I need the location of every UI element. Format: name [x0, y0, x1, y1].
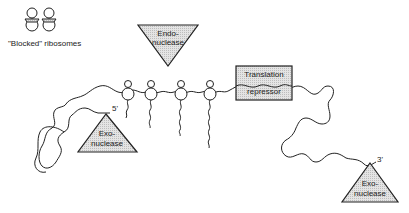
endonuclease-label-line1: Endo-	[157, 29, 179, 38]
translation-repressor-box: Translation repressor	[236, 66, 292, 100]
ribosome-4	[204, 81, 216, 149]
mrna-5prime-tail	[35, 127, 64, 173]
ribosome-2	[145, 81, 157, 129]
exonuclease-3-line1: Exo-	[362, 179, 379, 188]
repressor-label-line1: Translation	[244, 70, 283, 79]
exonuclease-3prime-triangle: Exo- nuclease	[342, 163, 398, 202]
endonuclease-label-line2: nuclease	[152, 38, 185, 47]
endonuclease-triangle: Endo- nuclease	[138, 25, 198, 66]
exonuclease-5-line1: Exo-	[99, 129, 116, 138]
repressor-label-line2: repressor	[247, 87, 281, 96]
exonuclease-5prime-triangle: Exo- nuclease	[78, 114, 137, 152]
five-prime-label: 5'	[112, 104, 118, 113]
exonuclease-3-line2: nuclease	[354, 189, 387, 198]
exonuclease-5-line2: nuclease	[91, 139, 124, 148]
ribosome-3	[175, 81, 187, 137]
three-prime-label: 3'	[377, 155, 383, 164]
diagram-canvas: "Blocked" ribosomes Endo- nuclease 5'	[0, 0, 409, 213]
blocked-ribosomes-label: "Blocked" ribosomes	[8, 39, 81, 48]
ribosome-1	[122, 81, 134, 119]
blocked-ribosomes-icon	[25, 8, 56, 31]
mrna-strand	[39, 86, 346, 168]
